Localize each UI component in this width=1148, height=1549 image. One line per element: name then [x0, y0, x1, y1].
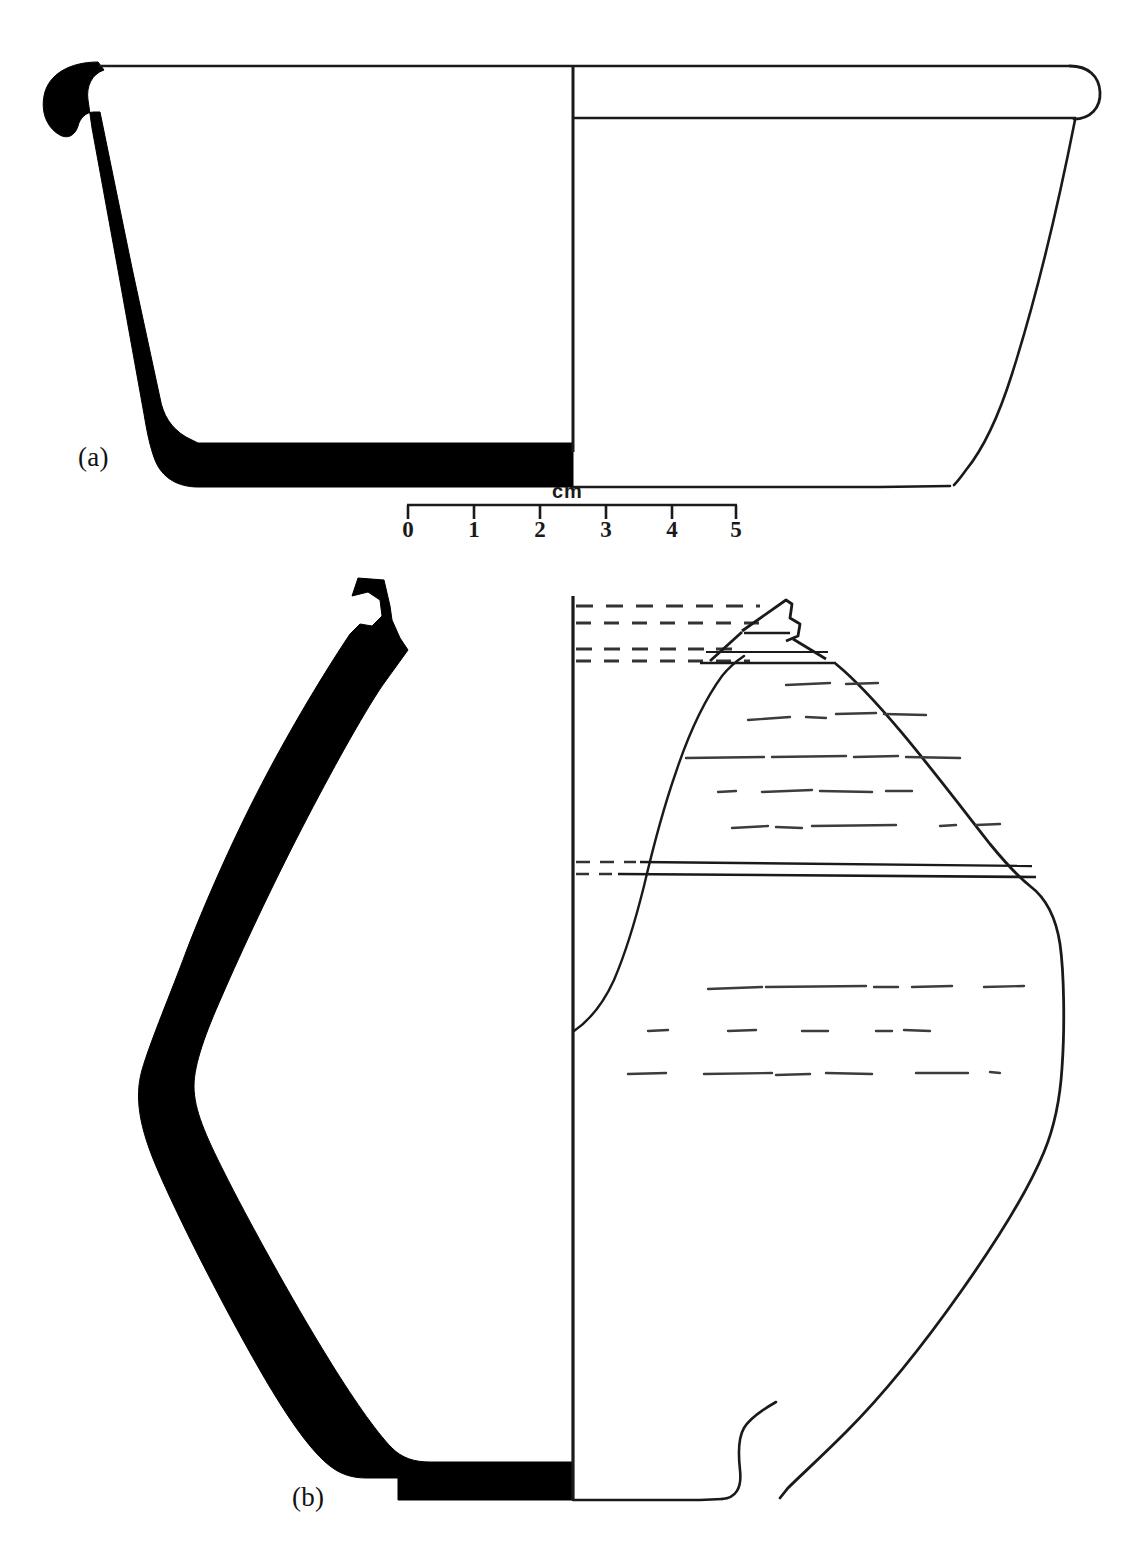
vessel-a-base-line: [573, 486, 950, 487]
panel-label-b: (b): [292, 1482, 324, 1513]
pottery-drawing-canvas: [0, 0, 1148, 1549]
scale-tick-label-3: 3: [591, 517, 621, 543]
panel-label-a: (a): [78, 442, 109, 473]
scale-tick-label-5: 5: [721, 517, 751, 543]
scale-tick-label-2: 2: [525, 517, 555, 543]
scale-tick-label-1: 1: [459, 517, 489, 543]
vessel-b-base-line: [573, 1499, 722, 1500]
scale-tick-label-4: 4: [657, 517, 687, 543]
scale-tick-label-0: 0: [393, 517, 423, 543]
pottery-figure-sheet: (a) (b) cm 0 1 2 3 4 5: [0, 0, 1148, 1549]
scale-unit-label: cm: [552, 480, 583, 503]
